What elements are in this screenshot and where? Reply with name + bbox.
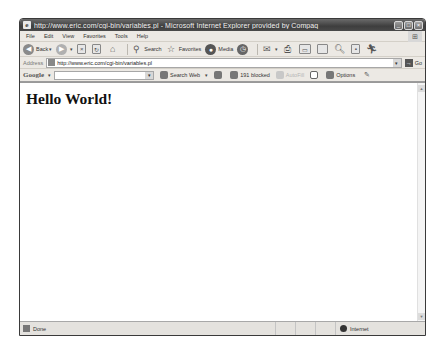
address-label: Address: [23, 60, 43, 66]
status-cell: [295, 322, 315, 335]
title-bar[interactable]: e http://www.eric.com/cgi-bin/variables.…: [20, 19, 425, 31]
scroll-down-icon[interactable]: ▼: [418, 313, 425, 320]
scroll-up-icon[interactable]: ▲: [418, 85, 425, 92]
running-man-icon: 🏃︎: [366, 44, 377, 55]
search-button[interactable]: ⚲ Search: [131, 44, 161, 55]
windows-logo-icon: ⊞: [408, 31, 422, 42]
page-info-icon: [310, 71, 318, 79]
refresh-icon: ↻: [92, 44, 101, 54]
address-url[interactable]: http://www.eric.com/cgi-bin/variables.pl: [57, 60, 392, 66]
popup-blocked-count: 191 blocked: [240, 72, 270, 78]
menu-edit[interactable]: Edit: [44, 33, 53, 39]
refresh-button[interactable]: ↻: [92, 44, 103, 54]
status-bar: Done Internet: [20, 321, 425, 335]
toolbar-divider: [257, 44, 258, 55]
search-web-label: Search Web: [170, 72, 200, 78]
menu-view[interactable]: View: [62, 33, 74, 39]
page-done-icon: [23, 325, 30, 332]
address-bar: Address http://www.eric.com/cgi-bin/vari…: [20, 57, 425, 69]
print-icon: ⎙: [282, 44, 293, 55]
maximize-button[interactable]: □: [404, 21, 413, 30]
forward-arrow-icon: ▶: [56, 44, 67, 55]
go-button[interactable]: → Go: [405, 59, 422, 67]
resize-grip[interactable]: [417, 322, 425, 335]
options-label: Options: [336, 72, 355, 78]
page-icon: [48, 59, 55, 66]
autofill-label: AutoFill: [286, 72, 304, 78]
autofill-button[interactable]: AutoFill: [276, 71, 304, 79]
vertical-scrollbar[interactable]: ▲ ▼: [417, 83, 425, 322]
pagerank-icon: [214, 71, 222, 79]
stop-button[interactable]: ×: [77, 44, 88, 54]
back-label: Back: [36, 46, 48, 52]
media-button[interactable]: ● Media: [205, 44, 233, 55]
google-menu-dropdown-icon[interactable]: ▾: [48, 72, 51, 78]
back-arrow-icon: ◀: [23, 44, 34, 55]
edit-icon: ▭: [299, 44, 311, 54]
status-cell: [315, 322, 335, 335]
search-label: Search: [144, 46, 161, 52]
pagerank-button[interactable]: [214, 71, 224, 79]
zone-text: Internet: [350, 326, 369, 332]
edit-button[interactable]: ▭: [299, 44, 313, 54]
page-content: Hello World! ▲ ▼: [20, 82, 425, 322]
page-heading: Hello World!: [26, 90, 112, 108]
print-button[interactable]: ⎙: [282, 44, 295, 55]
search-icon: ⚲: [131, 44, 142, 55]
highlight-button[interactable]: ✎: [361, 70, 374, 81]
star-icon: ☆: [166, 44, 177, 55]
address-dropdown-icon[interactable]: ▾: [393, 59, 401, 67]
discuss-button[interactable]: [317, 44, 330, 54]
mail-button[interactable]: ✉ ▾: [261, 44, 278, 55]
favorites-button[interactable]: ☆ Favorites: [166, 44, 202, 55]
popup-blocker-icon: [230, 71, 238, 79]
status-cell: [275, 322, 295, 335]
favorites-label: Favorites: [179, 46, 202, 52]
home-button[interactable]: ⌂: [107, 44, 120, 55]
history-button[interactable]: ◷: [237, 44, 250, 55]
forward-dropdown-icon[interactable]: ▾: [70, 46, 73, 52]
menu-help[interactable]: Help: [137, 33, 148, 39]
menu-file[interactable]: File: [26, 33, 35, 39]
minimize-button[interactable]: _: [394, 21, 403, 30]
menu-tools[interactable]: Tools: [115, 33, 128, 39]
options-button[interactable]: Options: [326, 71, 355, 79]
google-search-input[interactable]: ▾: [54, 71, 154, 80]
window-controls: _ □ ×: [394, 21, 423, 30]
google-search-dropdown-icon[interactable]: ▾: [145, 72, 153, 79]
search-web-button[interactable]: Search Web ▾: [160, 71, 208, 79]
close-button[interactable]: ×: [414, 21, 423, 30]
menu-bar: File Edit View Favorites Tools Help ⊞: [20, 31, 425, 42]
messenger-button[interactable]: ▪: [351, 44, 362, 54]
status-text: Done: [33, 326, 46, 332]
go-arrow-icon: →: [405, 59, 413, 67]
google-logo-button[interactable]: Google: [23, 71, 44, 79]
search-web-icon: [160, 71, 168, 79]
mail-dropdown-icon[interactable]: ▾: [275, 46, 278, 52]
google-toolbar: Google ▾ ▾ Search Web ▾ 191 blocked Auto…: [20, 69, 425, 82]
research-button[interactable]: 🔍︎: [334, 44, 347, 55]
globe-icon: [340, 325, 347, 332]
mail-icon: ✉: [261, 44, 272, 55]
search-web-dropdown-icon[interactable]: ▾: [205, 72, 208, 78]
forward-button[interactable]: ▶ ▾: [56, 44, 73, 55]
security-zone: Internet: [335, 322, 417, 335]
history-icon: ◷: [237, 44, 248, 55]
messenger-icon: ▪: [351, 44, 360, 54]
back-button[interactable]: ◀ Back ▾: [23, 44, 52, 55]
highlighter-icon: ✎: [361, 70, 372, 81]
back-dropdown-icon[interactable]: ▾: [49, 46, 52, 52]
toolbar-divider: [127, 44, 128, 55]
aim-button[interactable]: 🏃︎: [366, 44, 379, 55]
menu-favorites[interactable]: Favorites: [83, 33, 106, 39]
window-title: http://www.eric.com/cgi-bin/variables.pl…: [34, 22, 394, 29]
page-info-button[interactable]: [310, 71, 320, 79]
ie-icon: e: [23, 21, 31, 29]
popup-blocker-button[interactable]: 191 blocked: [230, 71, 270, 79]
go-label: Go: [415, 60, 422, 66]
browser-window: e http://www.eric.com/cgi-bin/variables.…: [19, 18, 426, 336]
discuss-icon: [317, 44, 328, 54]
address-input[interactable]: http://www.eric.com/cgi-bin/variables.pl…: [46, 58, 401, 68]
media-icon: ●: [205, 44, 216, 55]
options-icon: [326, 71, 334, 79]
